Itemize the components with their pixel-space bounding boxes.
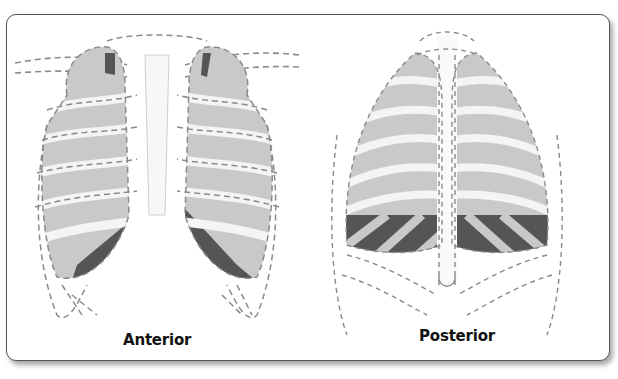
anterior-label: Anterior xyxy=(123,331,191,349)
anterior-panel: Anterior xyxy=(7,15,307,360)
anterior-chest-illustration xyxy=(7,15,307,360)
posterior-label: Posterior xyxy=(419,327,495,345)
posterior-chest-illustration xyxy=(317,15,609,360)
figure-frame: Anterior xyxy=(6,14,610,361)
posterior-panel: Posterior xyxy=(317,15,609,360)
